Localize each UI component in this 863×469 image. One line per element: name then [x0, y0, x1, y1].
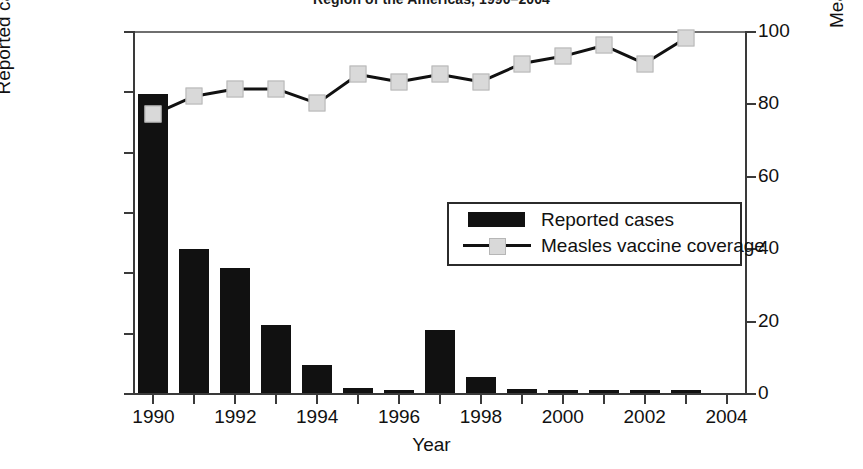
coverage-marker-2000 [554, 48, 571, 65]
x-axis-tick [603, 395, 605, 404]
x-axis-tick-label: 2002 [624, 406, 666, 428]
x-axis-tick [521, 395, 523, 404]
x-axis-tick [562, 395, 564, 404]
coverage-marker-1999 [513, 55, 530, 72]
coverage-marker-1994 [309, 95, 326, 112]
right-axis-tick [747, 176, 756, 178]
coverage-marker-1995 [350, 66, 367, 83]
x-axis-tick [685, 395, 687, 404]
x-axis-tick [439, 395, 441, 404]
x-axis-tick [152, 395, 154, 404]
left-axis-tick [124, 333, 133, 335]
x-axis-tick-label: 2004 [705, 406, 747, 428]
coverage-marker-1998 [472, 73, 489, 90]
x-axis-tick [480, 395, 482, 404]
right-axis-tick-label: 20 [758, 310, 779, 332]
left-axis-tick [124, 212, 133, 214]
legend-entry-vaccine-coverage: Measles vaccine coverage [449, 233, 740, 259]
x-axis-tick [234, 395, 236, 404]
left-axis-tick [124, 272, 133, 274]
legend-entry-reported-cases: Reported cases [449, 207, 740, 233]
x-axis-tick [357, 395, 359, 404]
x-axis-tick-label: 1998 [460, 406, 502, 428]
chart-legend: Reported cases Measles vaccine coverage [447, 202, 742, 266]
x-axis-tick-label: 1996 [378, 406, 420, 428]
legend-bar-swatch-icon [468, 212, 525, 227]
right-axis-tick-label: 60 [758, 165, 779, 187]
right-axis-tick [747, 103, 756, 105]
coverage-marker-2003 [677, 30, 694, 47]
x-axis-tick-label: 1990 [132, 406, 174, 428]
right-axis-tick-label: 0 [758, 382, 769, 404]
x-axis-tick [644, 395, 646, 404]
x-axis-tick [275, 395, 277, 404]
measles-chart-figure: Region of the Americas, 1990–2004 300,00… [0, 0, 863, 469]
right-axis-title: Measles vaccine coverage [826, 0, 848, 28]
chart-title: Region of the Americas, 1990–2004 [0, 0, 863, 7]
left-axis-title: Reported cases [0, 0, 15, 128]
legend-label-vaccine-coverage: Measles vaccine coverage [541, 235, 765, 257]
coverage-marker-1990 [145, 106, 162, 123]
coverage-marker-1997 [432, 66, 449, 83]
left-axis-tick [124, 91, 133, 93]
coverage-marker-1992 [227, 80, 244, 97]
left-axis-tick [124, 31, 133, 33]
right-axis-tick [747, 321, 756, 323]
x-axis-tick [398, 395, 400, 404]
right-axis-tick-label: 80 [758, 92, 779, 114]
x-axis-tick [316, 395, 318, 404]
coverage-marker-2001 [595, 37, 612, 54]
left-axis-tick [124, 393, 133, 395]
right-axis-tick [747, 393, 756, 395]
legend-square-marker-icon [489, 238, 506, 255]
legend-label-reported-cases: Reported cases [541, 209, 674, 231]
left-axis-tick [124, 152, 133, 154]
x-axis-tick-label: 2000 [542, 406, 584, 428]
legend-line-swatch-icon [463, 237, 531, 254]
coverage-marker-1993 [268, 80, 285, 97]
right-axis-tick [747, 31, 756, 33]
coverage-marker-1996 [391, 73, 408, 90]
x-axis-tick-label: 1992 [214, 406, 256, 428]
x-axis-tick-label: 1994 [296, 406, 338, 428]
x-axis-title: Year [0, 434, 863, 456]
x-axis-tick [193, 395, 195, 404]
right-axis-tick-label: 100 [758, 20, 790, 42]
x-axis-tick [726, 395, 728, 404]
coverage-marker-2002 [636, 55, 653, 72]
coverage-marker-1991 [186, 88, 203, 105]
